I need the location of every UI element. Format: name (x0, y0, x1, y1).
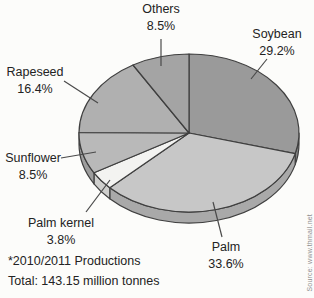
slice-name-others: Others (142, 2, 180, 16)
slice-pct-sunflower: 8.5% (5, 167, 61, 184)
slice-pct-palm: 33.6% (208, 256, 243, 273)
leader-line-rapeseed (64, 81, 98, 103)
slice-label-sunflower: Sunflower 8.5% (5, 150, 61, 184)
slice-name-sunflower: Sunflower (5, 151, 61, 165)
slice-label-others: Others 8.5% (142, 1, 180, 35)
slice-pct-palm-kernel: 3.8% (28, 232, 94, 249)
slice-name-soybean: Soybean (252, 27, 301, 41)
slice-label-rapeseed: Rapeseed 16.4% (7, 64, 64, 98)
slice-pct-soybean: 29.2% (252, 43, 301, 60)
slice-label-palm: Palm 33.6% (208, 239, 243, 273)
slice-name-rapeseed: Rapeseed (7, 65, 64, 79)
footnote-text: *2010/2011 Productions (8, 253, 141, 269)
slice-pct-others: 8.5% (142, 18, 180, 35)
slice-label-palm-kernel: Palm kernel 3.8% (28, 215, 94, 249)
slice-pct-rapeseed: 16.4% (7, 81, 64, 98)
slice-name-palm: Palm (212, 240, 240, 254)
slice-label-soybean: Soybean 29.2% (252, 26, 301, 60)
total-text: Total: 143.15 million tonnes (8, 273, 159, 289)
slice-name-palm-kernel: Palm kernel (28, 216, 94, 230)
chart-container: Soybean 29.2% Palm 33.6% Palm kernel 3.8… (0, 0, 314, 298)
source-note: Source: www.thmail.net (306, 214, 313, 292)
